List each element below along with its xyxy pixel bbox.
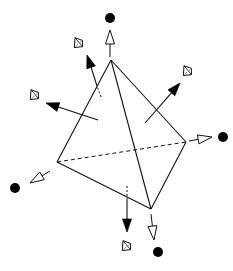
vertex-dots — [10, 13, 228, 257]
hidden-shaft — [97, 86, 101, 97]
hollow-arrow-icon — [106, 30, 115, 44]
crystal-glyphs — [27, 36, 193, 253]
vertex-arrows — [30, 30, 212, 240]
diagram-canvas — [0, 0, 233, 271]
arrow-shaft — [58, 107, 98, 120]
solid-arrow-icon — [87, 55, 96, 69]
filled-circle-icon — [218, 132, 228, 142]
filled-circle-icon — [105, 13, 115, 23]
crystal-outline — [27, 88, 40, 102]
arrow-shaft — [151, 214, 152, 226]
vertex-arrow-right — [189, 135, 212, 144]
crystal-icon — [180, 64, 193, 78]
arrow-shaft — [91, 67, 97, 86]
crystal-outline — [180, 64, 193, 78]
arrow-shaft — [189, 139, 198, 141]
hollow-arrow-icon — [148, 226, 157, 240]
filled-circle-icon — [153, 247, 163, 257]
vertex-arrow-top — [106, 30, 115, 57]
crystal-outline — [71, 36, 84, 50]
face-normal-arrows — [46, 55, 180, 232]
crystal-icon — [27, 88, 40, 102]
crystal-icon — [71, 36, 84, 50]
arrow-shaft — [42, 171, 50, 176]
face-normal-left — [46, 103, 98, 120]
hollow-arrow-icon — [30, 172, 44, 183]
hidden-edge-left-right — [57, 142, 186, 162]
crystal-outline — [119, 239, 132, 253]
edge-left-bottom — [57, 162, 151, 209]
face-normal-bottom — [123, 186, 132, 232]
tetrahedron-diagram — [0, 0, 233, 271]
face-normal-upper-left — [87, 55, 101, 97]
vertex-arrow-bottom — [148, 214, 157, 240]
tetrahedron-edges — [57, 60, 186, 209]
crystal-icon — [119, 239, 132, 253]
arrow-shaft — [145, 93, 171, 123]
solid-arrow-icon — [46, 103, 60, 112]
vertex-arrow-left — [30, 171, 50, 183]
solid-arrow-icon — [123, 219, 132, 232]
edge-apex-left — [57, 60, 111, 162]
filled-circle-icon — [10, 183, 20, 193]
hollow-arrow-icon — [197, 135, 212, 144]
edge-right-bottom — [151, 142, 186, 209]
